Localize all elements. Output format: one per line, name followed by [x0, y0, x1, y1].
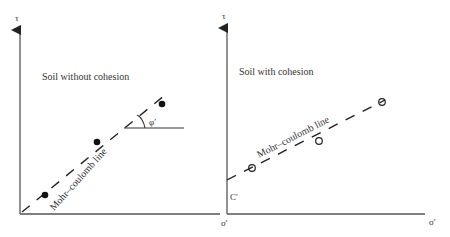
data-point-3	[159, 101, 166, 108]
angle-arc	[137, 115, 145, 128]
left-panel-title: Soil without cohesion	[42, 71, 129, 82]
right-x-axis-label: σ′	[429, 217, 436, 227]
cohesion-intercept-label: C′	[230, 192, 238, 202]
right-panel: τ Soil with cohesion σ′ σ′ C′ Mohr–coulo…	[221, 11, 436, 228]
left-y-axis-label: τ	[15, 13, 19, 23]
right-mohr-coulomb-line	[227, 100, 385, 180]
right-y-axis-label: τ	[222, 11, 226, 21]
phi-angle-label: φ′	[149, 117, 156, 127]
origin-sigma-label: σ′	[221, 218, 228, 228]
data-point-1	[42, 192, 49, 199]
right-panel-title: Soil with cohesion	[239, 66, 313, 77]
right-line-label: Mohr–coulomb line	[255, 114, 332, 160]
data-point-2	[94, 139, 101, 146]
mohr-coulomb-diagram: τ Soil without cohesion φ′ Mohr–coulomb …	[0, 0, 450, 237]
data-point-2	[316, 138, 323, 145]
left-panel: τ Soil without cohesion φ′ Mohr–coulomb …	[15, 13, 220, 214]
left-line-label: Mohr–coulomb line	[47, 145, 109, 212]
